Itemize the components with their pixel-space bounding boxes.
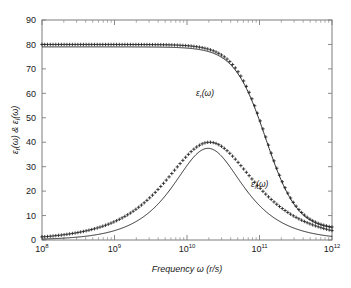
y-axis-title: εr(ω) & εi(ω)	[10, 106, 21, 155]
y-tick-label: 40	[26, 137, 36, 147]
x-tick-label: 1012	[324, 243, 341, 254]
epsilon-imag-label: εi(ω)	[251, 179, 269, 190]
y-tick-label: 10	[26, 211, 36, 221]
y-tick-label: 60	[26, 89, 36, 99]
plot-background	[42, 20, 332, 240]
y-tick-label: 90	[26, 15, 36, 25]
svg-text:εr(ω) & εi(ω): εr(ω) & εi(ω)	[10, 106, 21, 155]
epsilon-real-label: εr(ω)	[196, 88, 214, 99]
x-tick-label: 109	[108, 243, 122, 254]
chart-canvas: 0102030405060708090108109101010111012 Fr…	[0, 0, 351, 288]
y-tick-label: 70	[26, 64, 36, 74]
permittivity-figure: 0102030405060708090108109101010111012 Fr…	[0, 0, 351, 288]
y-tick-label: 80	[26, 40, 36, 50]
x-axis-title: Frequency ω (r/s)	[152, 264, 223, 274]
x-tick-label: 1011	[251, 243, 268, 254]
y-tick-label: 50	[26, 113, 36, 123]
x-tick-label: 1010	[179, 243, 196, 254]
plot-area	[42, 20, 332, 240]
x-tick-label: 108	[35, 243, 49, 254]
y-tick-label: 30	[26, 162, 36, 172]
y-tick-label: 20	[26, 186, 36, 196]
